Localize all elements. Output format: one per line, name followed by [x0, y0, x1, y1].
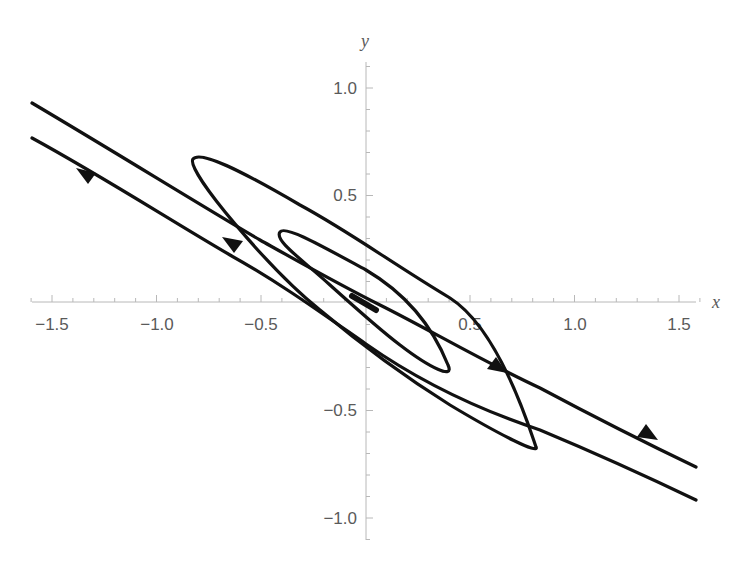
x-tick-label: 1.5: [667, 315, 691, 334]
trajectory-lower: [32, 138, 696, 500]
phase-portrait-chart: −1.5 −1.0 −0.5 0.5 1.0 1.5 1.0 0.5 −0.5 …: [0, 0, 751, 570]
y-tick-label: 1.0: [333, 79, 357, 98]
y-tick-label: −1.0: [323, 509, 357, 528]
y-tick-label: −0.5: [323, 401, 357, 420]
x-tick-label: −1.0: [140, 315, 174, 334]
y-axis-label: y: [359, 31, 369, 51]
x-tick-label: −0.5: [244, 315, 278, 334]
x-tick-label: −1.5: [35, 315, 69, 334]
x-tick-label: 1.0: [563, 315, 587, 334]
x-axis-label: x: [711, 292, 720, 312]
trajectory-upper: [32, 103, 696, 467]
y-tick-label: 0.5: [333, 186, 357, 205]
arrow-down-right-icon: [637, 424, 658, 440]
